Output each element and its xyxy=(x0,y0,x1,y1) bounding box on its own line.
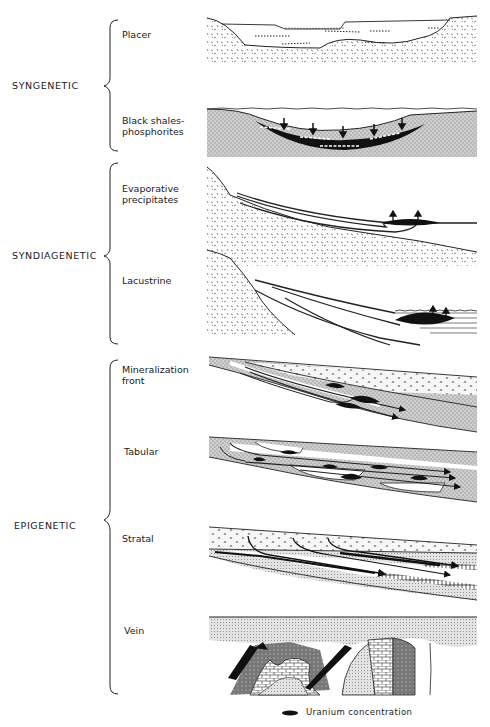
legend-label: Uranium concentration xyxy=(306,707,412,717)
diagram-canvas xyxy=(0,0,490,727)
brace-syngenetic xyxy=(104,20,118,151)
brace-epigenetic xyxy=(104,360,118,694)
section-stratal xyxy=(209,527,477,600)
legend-uranium-symbol xyxy=(282,711,298,716)
uranium-concentration xyxy=(380,219,440,226)
section-placer xyxy=(207,16,477,63)
section-black-shales xyxy=(207,108,477,157)
section-mineralization-front xyxy=(209,357,477,432)
section-evaporative xyxy=(207,167,477,266)
section-vein xyxy=(209,617,477,695)
brace-syndiagenetic xyxy=(104,163,118,344)
section-tabular xyxy=(209,437,477,502)
